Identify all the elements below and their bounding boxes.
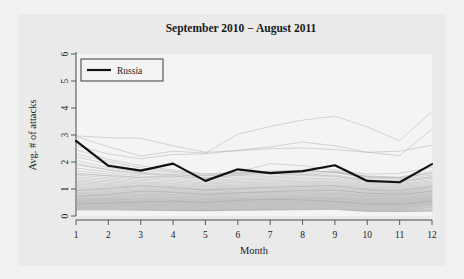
x-axis-ticks: 123456789101112 xyxy=(74,220,437,240)
x-tick-label: 12 xyxy=(427,230,437,240)
y-axis-label: Avg. # of attacks xyxy=(27,100,38,171)
x-tick-label: 9 xyxy=(333,230,338,240)
figure-panel: September 2010 − August 2011 Avg. # of a… xyxy=(18,14,446,266)
x-tick-label: 8 xyxy=(300,230,305,240)
x-tick-label: 11 xyxy=(395,230,404,240)
y-tick-label: 0 xyxy=(60,213,70,218)
x-tick-label: 7 xyxy=(268,230,273,240)
x-tick-label: 1 xyxy=(74,230,79,240)
x-axis-label: Month xyxy=(240,245,269,256)
line-chart: September 2010 − August 2011 Avg. # of a… xyxy=(18,14,446,266)
y-tick-label: 4 xyxy=(60,105,70,110)
x-tick-label: 10 xyxy=(363,230,373,240)
x-tick-label: 4 xyxy=(171,230,176,240)
y-tick-label: 2 xyxy=(60,159,70,164)
y-tick-label: 3 xyxy=(60,132,70,137)
x-tick-label: 6 xyxy=(235,230,240,240)
y-tick-label: 6 xyxy=(60,51,70,56)
legend[interactable]: Russia xyxy=(81,59,163,81)
chart-title: September 2010 − August 2011 xyxy=(166,22,317,35)
x-tick-label: 3 xyxy=(138,230,143,240)
legend-label-russia: Russia xyxy=(117,66,143,76)
x-tick-label: 5 xyxy=(203,230,208,240)
y-tick-label: 5 xyxy=(60,78,70,83)
x-tick-label: 2 xyxy=(106,230,111,240)
y-axis-ticks: 0123456 xyxy=(60,51,76,218)
y-tick-label: 1 xyxy=(60,186,70,191)
